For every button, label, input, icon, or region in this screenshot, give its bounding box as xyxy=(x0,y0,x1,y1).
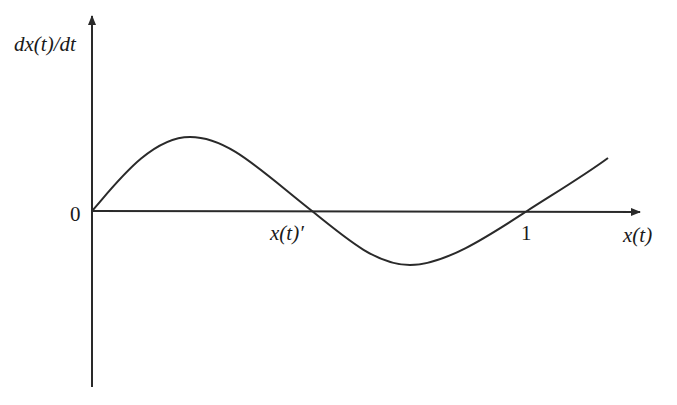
x-axis xyxy=(92,211,640,212)
y-axis-label: dx(t)/dt xyxy=(14,34,76,55)
crossing-label-one: 1 xyxy=(521,223,532,244)
x-axis-label: x(t) xyxy=(623,225,652,246)
phase-plot xyxy=(0,0,677,405)
origin-label: 0 xyxy=(70,204,81,225)
crossing-label-x-t-prime: x(t)′ xyxy=(270,223,304,244)
derivative-curve xyxy=(92,137,608,265)
